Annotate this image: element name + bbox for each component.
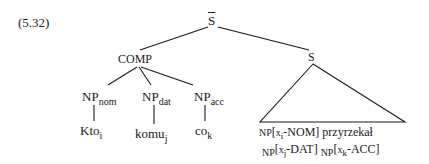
np-base: NP xyxy=(194,89,211,104)
case-subscript: acc xyxy=(211,96,224,107)
edge-sbar-comp xyxy=(140,27,208,50)
index-subscript: k xyxy=(207,130,212,141)
np-label: NP xyxy=(259,127,272,138)
s-triangle xyxy=(260,64,405,122)
s-node: S xyxy=(308,51,315,63)
case-feature: -NOM] xyxy=(283,125,319,139)
triangle-text-line2: NP[xj-DAT] NP[xk-ACC] xyxy=(262,143,380,155)
edge-sbar-s xyxy=(218,27,309,50)
case-subscript: nom xyxy=(99,96,117,107)
comp-node: COMP xyxy=(118,53,152,65)
np-label: NP xyxy=(262,147,275,158)
case-feature: -DAT] xyxy=(286,142,317,156)
index-subscript: k xyxy=(342,148,347,158)
example-number: (5.32) xyxy=(18,16,49,29)
leaf-word: Kto xyxy=(80,123,100,138)
leaf-kto: Ktoi xyxy=(80,124,102,137)
index-subscript: j xyxy=(165,133,168,144)
leaf-komu: komuj xyxy=(135,127,167,140)
triangle-text-line1: NP[xi-NOM] przyrzekał xyxy=(259,126,373,138)
root-node-sbar: S xyxy=(208,14,215,27)
np-label: NP xyxy=(321,147,334,158)
index-subscript: i xyxy=(100,130,103,141)
np-dat-node: NPdat xyxy=(142,90,171,103)
index-subscript: i xyxy=(281,131,284,141)
index-subscript: j xyxy=(284,148,287,158)
edge-comp-npnom xyxy=(108,67,137,85)
leaf-word: komu xyxy=(135,126,165,141)
verb-word: przyrzekał xyxy=(322,125,373,139)
case-subscript: dat xyxy=(159,96,171,107)
np-nom-node: NPnom xyxy=(82,90,116,103)
case-feature: -ACC] xyxy=(347,142,380,156)
np-base: NP xyxy=(82,89,99,104)
np-acc-node: NPacc xyxy=(194,90,224,103)
np-base: NP xyxy=(142,89,159,104)
leaf-co: cok xyxy=(195,124,212,137)
leaf-word: co xyxy=(195,123,207,138)
